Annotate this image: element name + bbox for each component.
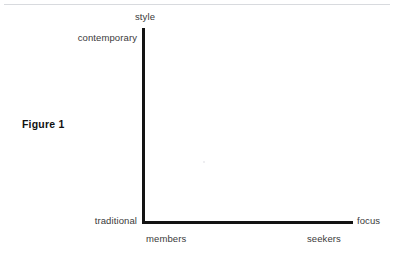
y-axis-low-pole-label: traditional [95,215,137,227]
scan-artifact-speck [203,161,205,163]
y-axis-line [142,28,145,224]
y-axis-title-label: style [135,11,155,23]
x-axis-left-pole-label: members [146,233,186,245]
y-axis-high-pole-label: contemporary [78,32,137,44]
figure-canvas: style contemporary traditional members f… [0,0,394,265]
x-axis-title-label: focus [357,215,380,227]
x-axis-right-pole-label: seekers [307,233,341,245]
x-axis-line [142,221,353,224]
figure-caption: Figure 1 [22,118,64,130]
page-rule-divider [4,4,390,5]
